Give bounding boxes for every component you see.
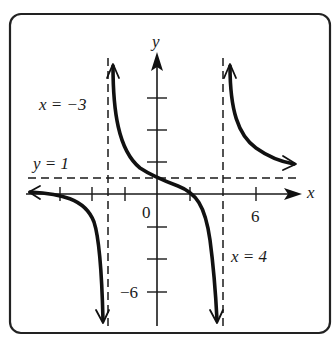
x-tick-label-6: 6 xyxy=(251,207,260,226)
x-axis-label: x xyxy=(306,183,315,202)
y-axis-label: y xyxy=(150,32,160,51)
asymptote-label-y-1: y = 1 xyxy=(31,154,69,173)
y-tick-label-neg6: −6 xyxy=(120,283,138,302)
curve-middle-branch xyxy=(113,66,217,320)
curve-right-branch xyxy=(230,66,294,164)
graph-svg: y x 0 6 −6 x = −3 y = 1 x = 4 xyxy=(0,0,336,341)
graph-figure: y x 0 6 −6 x = −3 y = 1 x = 4 xyxy=(0,0,336,341)
curve-left-branch xyxy=(30,192,103,320)
axes xyxy=(26,52,302,326)
asymptote-label-x-4: x = 4 xyxy=(230,247,268,266)
origin-label: 0 xyxy=(142,203,151,222)
figure-frame xyxy=(10,14,330,333)
labels: y x 0 6 −6 x = −3 y = 1 x = 4 xyxy=(31,32,315,302)
asymptote-label-x-neg3: x = −3 xyxy=(38,95,87,114)
